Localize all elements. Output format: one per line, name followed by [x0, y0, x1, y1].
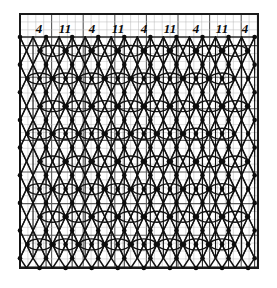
pin-dot: [232, 76, 237, 81]
pin-dot: [148, 145, 153, 150]
pin-dot: [252, 118, 257, 123]
pin-dot: [122, 173, 127, 178]
pin-dot: [208, 187, 213, 192]
pin-dot: [89, 159, 94, 164]
pin-dot: [246, 76, 251, 81]
pin-dot: [142, 49, 147, 54]
pin-dot: [103, 76, 108, 81]
pin-dot: [200, 118, 205, 123]
pin-dot: [96, 35, 101, 40]
pin-dot: [168, 131, 173, 136]
pin-dot: [194, 214, 199, 219]
header-number-5: 11: [164, 21, 176, 36]
pin-dot: [130, 76, 135, 81]
pin-dot: [115, 104, 120, 109]
pin-dot: [18, 256, 23, 261]
pin-dot: [122, 90, 127, 95]
pin-dot: [89, 49, 94, 54]
pin-dot: [37, 104, 42, 109]
pin-dot: [226, 256, 231, 261]
pin-dot: [174, 90, 179, 95]
pin-dot: [18, 118, 23, 123]
pin-dot: [103, 131, 108, 136]
pin-dot: [148, 256, 153, 261]
pin-dot: [130, 242, 135, 247]
header-number-2: 4: [88, 21, 96, 36]
pin-dot: [252, 62, 257, 67]
pin-dot: [89, 214, 94, 219]
pin-dot: [168, 242, 173, 247]
pin-dot: [44, 62, 49, 67]
pin-dot: [70, 228, 75, 233]
pin-dot: [44, 118, 49, 123]
pin-dot: [142, 187, 147, 192]
pin-dot: [63, 214, 68, 219]
pin-dot: [18, 35, 23, 40]
pin-dot: [70, 35, 75, 40]
pin-dot: [182, 131, 187, 136]
pin-dot: [220, 242, 225, 247]
pin-dot: [142, 242, 147, 247]
pin-dot: [122, 62, 127, 67]
lace-diagram: 4114114114114: [0, 0, 277, 288]
pin-dot: [122, 35, 127, 40]
pin-dot: [168, 214, 173, 219]
pin-dot: [115, 49, 120, 54]
pin-dot: [44, 145, 49, 150]
pin-dot: [156, 187, 161, 192]
pin-dot: [142, 214, 147, 219]
pin-dot: [96, 62, 101, 67]
pin-dot: [194, 76, 199, 81]
pin-dot: [200, 90, 205, 95]
pin-dot: [37, 131, 42, 136]
pin-dot: [37, 266, 42, 271]
lace-pricking-svg: 4114114114114: [0, 0, 277, 288]
pin-dot: [51, 76, 56, 81]
pin-dot: [37, 187, 42, 192]
pin-dot: [77, 242, 82, 247]
pin-dot: [156, 76, 161, 81]
pin-dot: [115, 159, 120, 164]
pin-dot: [194, 104, 199, 109]
pin-dot: [44, 35, 49, 40]
pin-dot: [142, 104, 147, 109]
pin-dot: [168, 266, 173, 271]
pin-dot: [246, 131, 251, 136]
pin-dot: [25, 242, 30, 247]
pin-dot: [174, 173, 179, 178]
pin-dot: [252, 201, 257, 206]
pin-dot: [44, 228, 49, 233]
pin-dot: [200, 228, 205, 233]
pin-dot: [51, 242, 56, 247]
pin-dot: [70, 201, 75, 206]
pin-dot: [89, 104, 94, 109]
pin-dot: [174, 62, 179, 67]
pin-dot: [174, 201, 179, 206]
pin-dot: [70, 62, 75, 67]
pin-dot: [220, 76, 225, 81]
pin-dot: [208, 242, 213, 247]
pin-dot: [148, 35, 153, 40]
header-number-8: 4: [241, 21, 249, 36]
pin-dot: [220, 214, 225, 219]
pin-dot: [70, 90, 75, 95]
pin-dot: [182, 242, 187, 247]
pin-dot: [182, 76, 187, 81]
pin-dot: [226, 173, 231, 178]
pin-dot: [252, 90, 257, 95]
pin-dot: [96, 201, 101, 206]
pin-dot: [63, 187, 68, 192]
pin-dot: [96, 256, 101, 261]
pin-dot: [246, 214, 251, 219]
pin-dot: [115, 76, 120, 81]
pin-dot: [115, 187, 120, 192]
pin-dot: [252, 173, 257, 178]
pin-dot: [208, 76, 213, 81]
pin-dot: [63, 266, 68, 271]
pin-dot: [18, 145, 23, 150]
pin-dot: [89, 266, 94, 271]
pin-dot: [96, 173, 101, 178]
pin-dot: [168, 49, 173, 54]
pin-dot: [122, 228, 127, 233]
pin-dot: [89, 242, 94, 247]
